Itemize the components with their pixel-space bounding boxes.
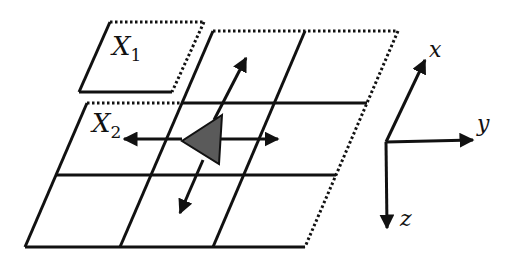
- arrow-down-icon: [180, 160, 203, 213]
- axis-z-arrow-icon: [386, 142, 387, 228]
- arrow-up-icon: [214, 58, 246, 120]
- diagram-canvas: X1 X2 x y z: [0, 0, 517, 262]
- axis-y-label: y: [476, 111, 490, 136]
- axis-y-arrow-icon: [386, 140, 473, 142]
- coordinate-axes: [386, 60, 473, 228]
- region-x1: [79, 22, 204, 92]
- label-x1: X1: [110, 31, 141, 65]
- label-x2: X2: [90, 108, 121, 142]
- axis-x-arrow-icon: [386, 60, 425, 142]
- axis-z-label: z: [399, 206, 412, 231]
- axis-x-label: x: [429, 37, 442, 62]
- triangle-marker-icon: [182, 115, 222, 164]
